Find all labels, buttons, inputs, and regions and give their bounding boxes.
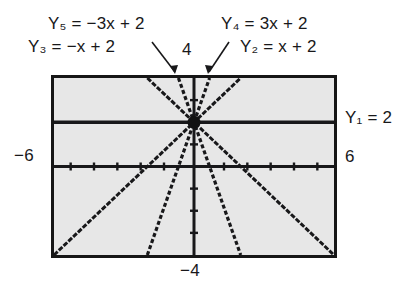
equation-label-y1: Y₁ = 2 (345, 108, 392, 128)
equation-label-y3: Y₃ = −x + 2 (28, 37, 115, 57)
window-ymax-label: 4 (182, 40, 192, 60)
window-xmax-label: 6 (345, 147, 355, 167)
equation-label-y4: Y₄ = 3x + 2 (221, 14, 308, 34)
window-xmin-label: −6 (14, 146, 34, 166)
equation-label-y2: Y₂ = x + 2 (240, 37, 317, 57)
graph-window (51, 75, 337, 258)
window-ymin-label: −4 (180, 261, 200, 281)
common-point-marker (188, 116, 201, 129)
graph-canvas (54, 78, 334, 255)
equation-label-y5: Y₅ = −3x + 2 (48, 14, 145, 34)
